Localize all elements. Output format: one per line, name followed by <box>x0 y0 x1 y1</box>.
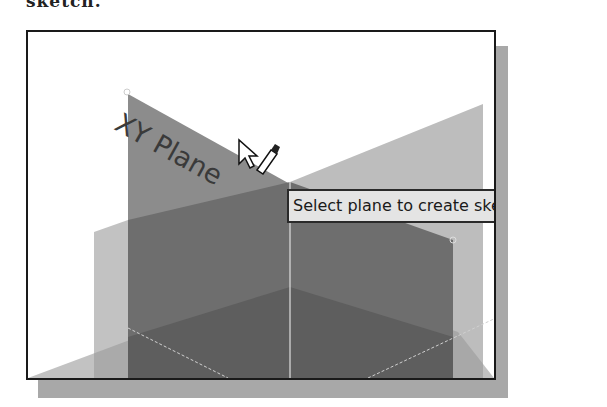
caption-text: sketch. <box>26 0 102 11</box>
corner-marker-top-left <box>124 89 130 95</box>
graphics-viewport[interactable]: XY Plane Select plane to create sketch o… <box>26 30 496 380</box>
tooltip: Select plane to create sketch or <box>287 189 496 223</box>
